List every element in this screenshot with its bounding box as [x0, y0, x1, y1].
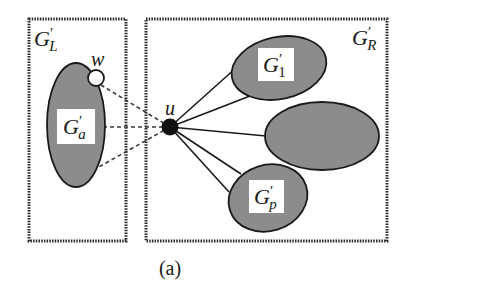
diagram-canvas: G′L G′R G′a G′1	[0, 0, 488, 290]
edge-u-middle	[170, 127, 266, 136]
dashed-edges	[97, 85, 170, 168]
u-label: u	[165, 97, 175, 119]
w-circle	[88, 70, 104, 86]
edge-u-g1-lower	[170, 96, 250, 127]
figure-caption: (a)	[159, 257, 181, 280]
component-g1: G′1	[226, 28, 333, 109]
u-circle	[162, 119, 179, 136]
edge-u-ga-lower	[97, 127, 170, 168]
w-label: w	[91, 48, 105, 70]
edge-u-w	[101, 85, 170, 127]
node-u: u	[162, 97, 179, 136]
middle-ellipse	[265, 102, 379, 170]
edge-u-g1-upper	[170, 67, 237, 127]
left-box-title: G′L	[34, 25, 58, 54]
right-box-title: G′R	[352, 24, 376, 53]
node-w: w	[88, 48, 105, 86]
component-middle	[265, 102, 379, 170]
